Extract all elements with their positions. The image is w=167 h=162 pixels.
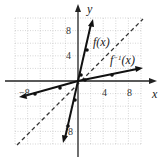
tick-y-8: 8 (66, 25, 71, 36)
tick-y-4: 4 (66, 50, 71, 61)
graph: y x f(x) f−1(x) −8 4 8 8 4 8 (0, 0, 167, 162)
tick-x-8: 8 (127, 87, 132, 98)
tick-x-neg8: −8 (19, 87, 30, 98)
f-label: f(x) (93, 35, 110, 49)
x-axis-label: x (151, 87, 158, 101)
f-inverse-label: f−1(x) (110, 53, 135, 67)
tick-x-4: 4 (102, 87, 107, 98)
tick-y-neg8: 8 (68, 126, 73, 137)
identity-line (17, 19, 143, 145)
y-axis-label: y (86, 2, 93, 16)
